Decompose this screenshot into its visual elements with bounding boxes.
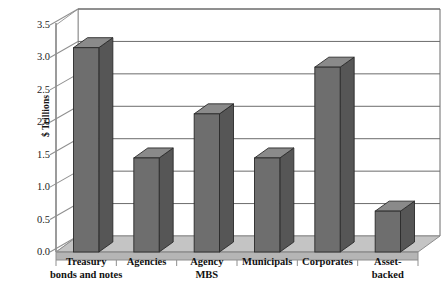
x-axis-category-label: Asset-backed xyxy=(350,256,426,281)
bar-front-face xyxy=(315,67,340,252)
bar xyxy=(375,201,414,252)
x-axis-category-label-line1: Corporates xyxy=(302,256,353,267)
bar-side-face xyxy=(280,148,294,252)
x-axis-category-label-line1: Treasury xyxy=(66,256,106,267)
bar-side-face xyxy=(340,57,354,252)
bar-front-face xyxy=(194,114,219,252)
bar xyxy=(315,57,354,252)
bar-front-face xyxy=(134,158,159,252)
x-axis-category-label-line1: Municipals xyxy=(242,256,292,267)
bar xyxy=(73,38,112,252)
bar-front-face xyxy=(73,48,98,252)
x-axis-category-label-line2: backed xyxy=(350,269,426,282)
x-axis-labels: Treasurybonds and notesAgenciesAgencyMBS… xyxy=(0,256,442,296)
x-axis-category-label-line2: MBS xyxy=(169,269,245,282)
bar-side-face xyxy=(99,38,113,252)
plot-area xyxy=(0,0,442,296)
bar xyxy=(134,148,173,252)
x-axis-category-label-line1: Agencies xyxy=(127,256,167,267)
x-axis-category-label-line1: Asset- xyxy=(374,256,401,267)
bar-side-face xyxy=(220,104,234,252)
bar-side-face xyxy=(159,148,173,252)
bar xyxy=(254,148,293,252)
bar xyxy=(194,104,233,252)
x-axis-category-label-line1: Agency xyxy=(190,256,223,267)
bar-front-face xyxy=(254,158,279,252)
bar-chart: $ Trillions 0.00.51.01.52.02.53.03.5 Tre… xyxy=(0,0,442,296)
x-axis-category-label-line2: bonds and notes xyxy=(48,269,124,282)
bar-front-face xyxy=(375,211,400,252)
